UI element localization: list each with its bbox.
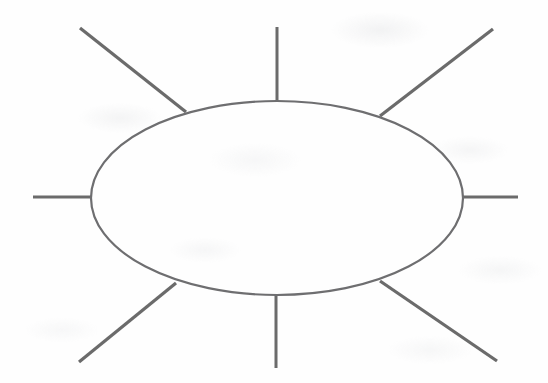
spoke-bottom-left[interactable]: [79, 283, 176, 362]
spoke-bottom-right[interactable]: [380, 281, 497, 361]
spider-diagram: [0, 0, 548, 383]
spoke-group: [33, 27, 518, 368]
central-ellipse[interactable]: [91, 101, 463, 295]
diagram-canvas: [0, 0, 548, 383]
spoke-top-right[interactable]: [380, 29, 493, 116]
spoke-top-left[interactable]: [80, 28, 186, 112]
